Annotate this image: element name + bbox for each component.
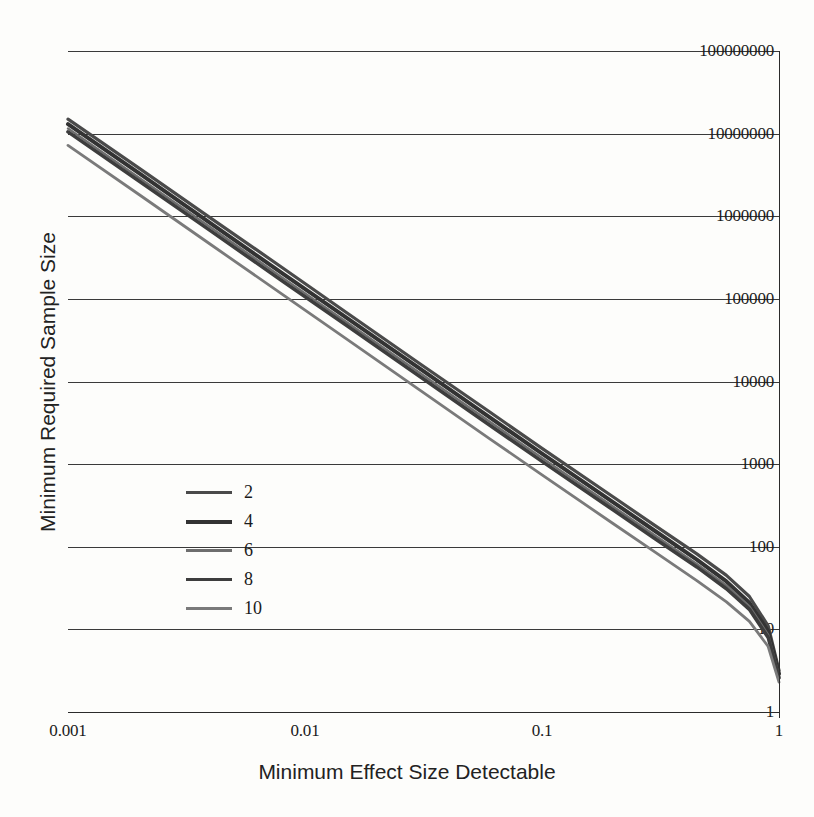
legend-item[interactable]: 10: [186, 594, 306, 623]
legend-swatch: [186, 520, 232, 524]
legend-label: 8: [244, 569, 253, 590]
chart-figure: 1101001000100001000001000000100000001000…: [0, 0, 814, 817]
legend-item[interactable]: 4: [186, 507, 306, 536]
series-line: [68, 145, 779, 682]
y-axis-title: Minimum Required Sample Size: [36, 72, 60, 692]
plot-curves: [0, 0, 814, 817]
x-tick-mark: [779, 707, 780, 718]
legend-item[interactable]: 6: [186, 536, 306, 565]
legend-item[interactable]: 8: [186, 565, 306, 594]
legend-label: 2: [244, 482, 253, 503]
legend-swatch: [186, 491, 232, 494]
legend: 246810: [186, 478, 306, 623]
x-tick-label: 1: [775, 721, 783, 741]
legend-swatch: [186, 578, 232, 582]
legend-label: 10: [244, 598, 262, 619]
series-line: [68, 129, 779, 677]
legend-item[interactable]: 2: [186, 478, 306, 507]
x-tick-label: 0.01: [291, 721, 320, 741]
series-line: [68, 132, 779, 678]
x-axis-line: [68, 712, 780, 713]
y-axis-line: [779, 51, 780, 713]
legend-label: 4: [244, 511, 253, 532]
legend-label: 6: [244, 540, 253, 561]
x-axis-title: Minimum Effect Size Detectable: [0, 760, 814, 784]
x-tick-label: 0.1: [532, 721, 553, 741]
legend-swatch: [186, 607, 232, 610]
x-tick-label: 0.001: [49, 721, 86, 741]
legend-swatch: [186, 549, 232, 551]
